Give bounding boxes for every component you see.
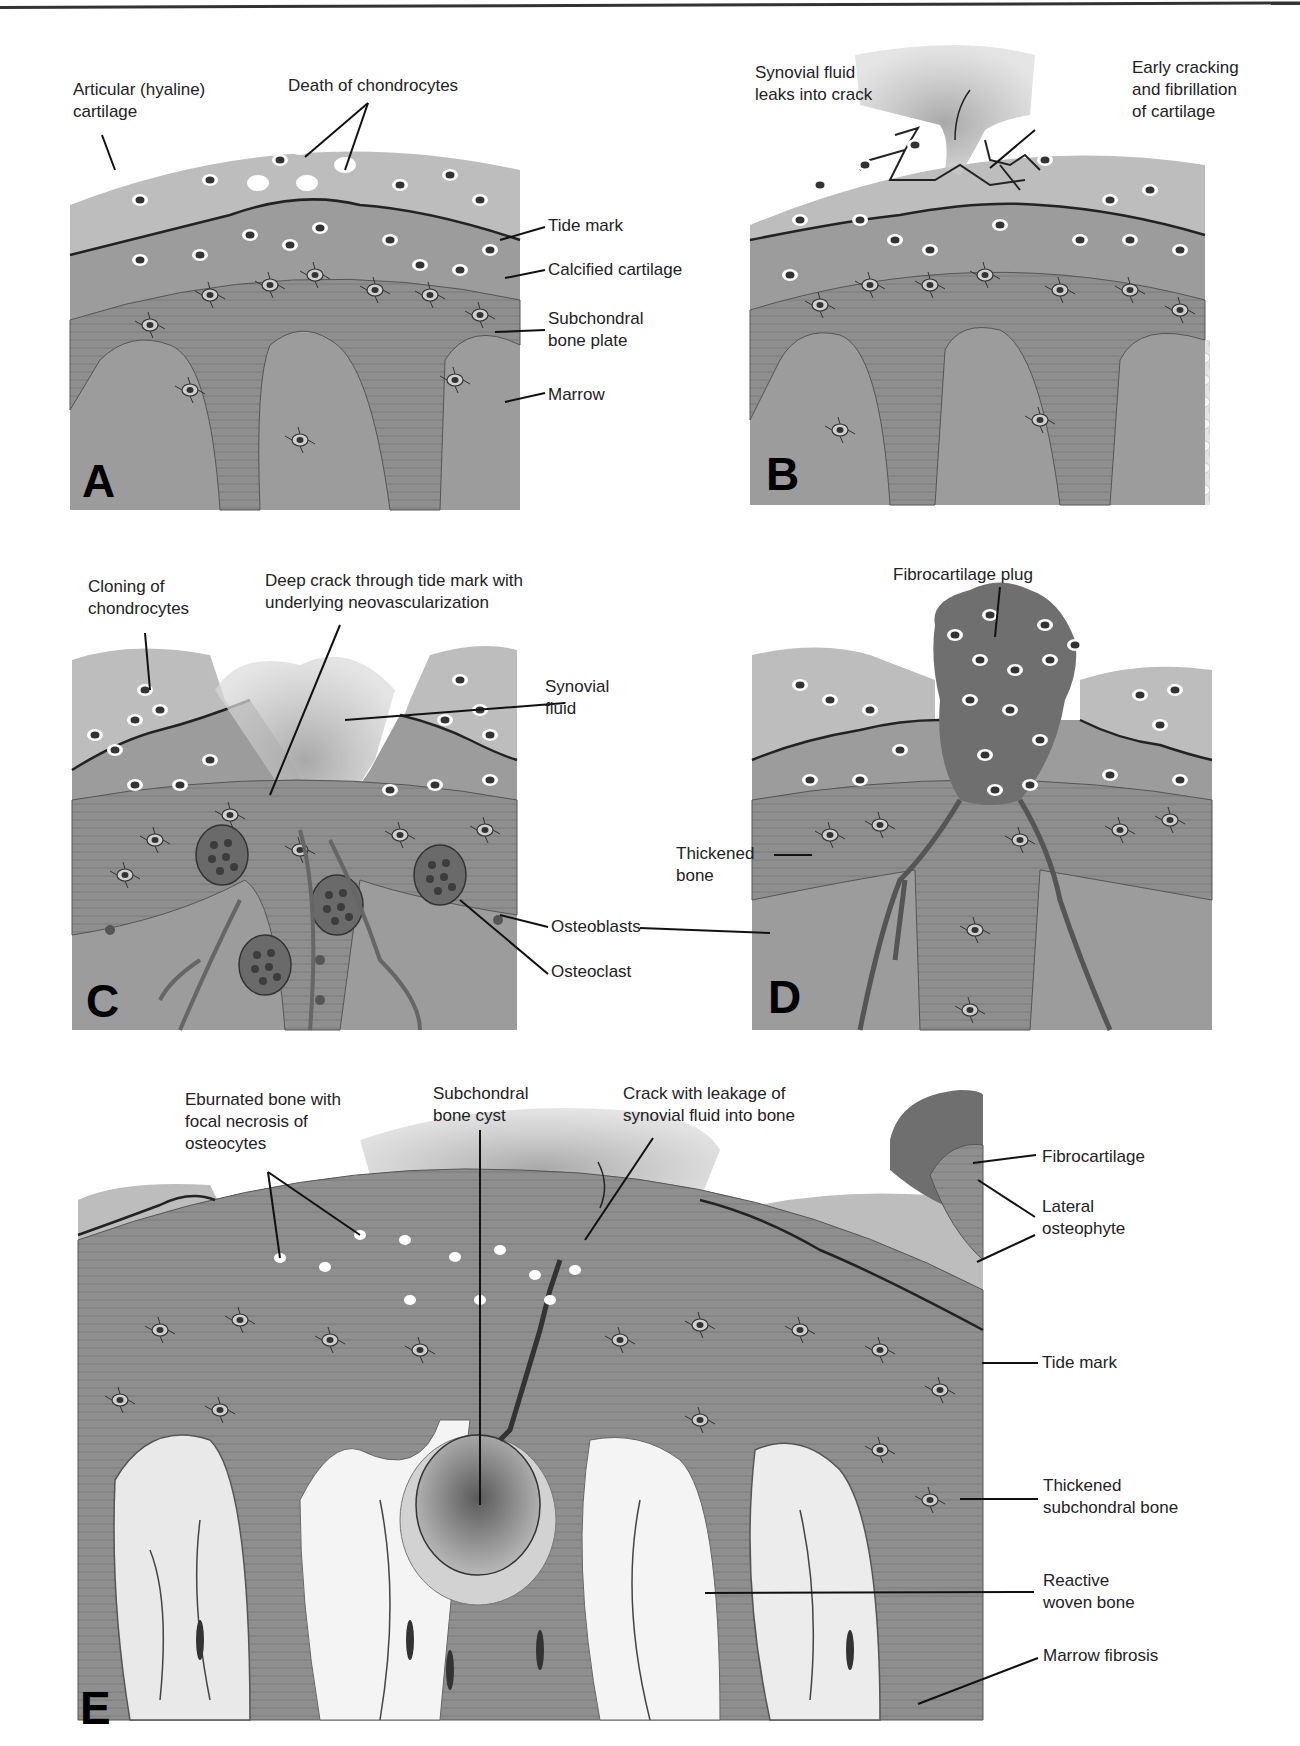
label-synovial-fluid-c: Synovial fluid [545, 676, 609, 720]
panel-letter-b: B [766, 451, 799, 497]
label-tide-mark-a: Tide mark [548, 215, 623, 237]
label-fibrocartilage-e: Fibrocartilage [1042, 1146, 1145, 1168]
label-thickened-bone: Thickened bone [676, 843, 754, 887]
label-marrow: Marrow [548, 384, 605, 406]
label-lateral-osteophyte: Lateral osteophyte [1042, 1196, 1125, 1240]
panel-e-illustration [78, 1090, 1038, 1720]
label-fibrocartilage-plug: Fibrocartilage plug [893, 564, 1033, 586]
panel-letter-a: A [82, 458, 115, 504]
label-osteoblasts: Osteoblasts [551, 916, 641, 938]
panel-letter-d: D [768, 974, 801, 1020]
label-subchondral-bone-plate: Subchondral bone plate [548, 308, 643, 352]
label-tide-mark-e: Tide mark [1042, 1352, 1117, 1374]
label-synovial-fluid-leaks: Synovial fluid leaks into crack [755, 62, 872, 106]
label-deep-crack: Deep crack through tide mark with underl… [265, 570, 523, 614]
label-subchondral-bone-cyst: Subchondral bone cyst [433, 1083, 528, 1127]
label-articular-cartilage: Articular (hyaline) cartilage [73, 79, 205, 123]
panel-letter-e: E [80, 1685, 111, 1731]
panel-a-illustration [70, 103, 545, 510]
label-crack-with-leakage: Crack with leakage of synovial fluid int… [623, 1083, 795, 1127]
panel-letter-c: C [86, 978, 119, 1024]
label-marrow-fibrosis: Marrow fibrosis [1043, 1645, 1158, 1667]
label-eburnated-bone: Eburnated bone with focal necrosis of os… [185, 1089, 341, 1155]
panel-c-illustration [72, 625, 565, 1030]
panel-d-illustration [640, 583, 1212, 1031]
label-thickened-subchondral-bone: Thickened subchondral bone [1043, 1475, 1178, 1519]
label-calcified-cartilage: Calcified cartilage [548, 259, 682, 281]
label-early-cracking: Early cracking and fibrillation of carti… [1132, 57, 1239, 123]
label-death-of-chondrocytes: Death of chondrocytes [288, 75, 458, 97]
label-reactive-woven-bone: Reactive woven bone [1043, 1570, 1135, 1614]
label-osteoclast: Osteoclast [551, 961, 631, 983]
label-cloning-of-chondrocytes: Cloning of chondrocytes [88, 576, 189, 620]
